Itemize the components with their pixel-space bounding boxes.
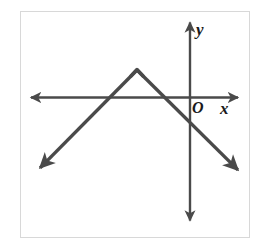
figure-root: y O x [0,0,257,252]
origin-label: O [192,100,204,116]
function-curve-left-arm [40,70,137,168]
function-curve-vertex [131,70,143,77]
x-axis-label: x [220,100,229,117]
y-axis-label: y [196,21,204,38]
function-curve-right-arm [137,70,238,170]
coordinate-plane-graphic [0,0,257,252]
